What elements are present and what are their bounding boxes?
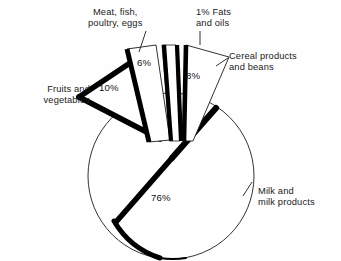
slice-label-milk-line2: milk products bbox=[258, 197, 315, 207]
pie-chart-graphic bbox=[0, 0, 341, 261]
slice-label-milk-line1: Milk and bbox=[258, 186, 294, 196]
slice-label-meat: Meat, fish, poultry, eggs bbox=[88, 7, 143, 29]
slice-value-fruits: 10% bbox=[99, 82, 119, 93]
slice-value-meat: 6% bbox=[137, 57, 151, 68]
slice-label-fruits: Fruits and vegetables bbox=[20, 84, 90, 106]
slice-label-cereal-line1: Cereal products bbox=[229, 51, 297, 61]
slice-label-fats: 1% Fats and oils bbox=[196, 7, 231, 29]
slice-value-milk: 76% bbox=[151, 192, 171, 203]
cereal-slice-thick-edge bbox=[184, 45, 186, 141]
slice-label-meat-line2: poultry, eggs bbox=[88, 18, 143, 28]
milk-slice-taper-arc bbox=[160, 258, 186, 259]
pie-chart-figure: Meat, fish, poultry, eggs 1% Fats and oi… bbox=[0, 0, 341, 261]
slice-label-fats-line1: 1% Fats bbox=[196, 7, 231, 17]
slice-label-meat-line1: Meat, fish, bbox=[93, 7, 138, 17]
slice-value-cereal: 8% bbox=[186, 70, 200, 81]
slice-label-fruits-line1: Fruits and bbox=[47, 84, 90, 94]
slice-label-fats-line2: and oils bbox=[196, 18, 229, 28]
slice-label-cereal-line2: and beans bbox=[229, 62, 274, 72]
slice-label-cereal: Cereal products and beans bbox=[229, 51, 297, 73]
slice-label-milk: Milk and milk products bbox=[258, 186, 315, 208]
slice-label-fruits-line2: vegetables bbox=[44, 95, 90, 105]
